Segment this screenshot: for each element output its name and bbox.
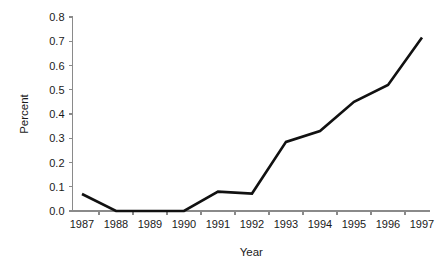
x-axis-title: Year (240, 246, 263, 258)
x-tick-label: 1993 (274, 218, 298, 230)
y-tick-label: 0.7 (49, 35, 64, 47)
x-tick-label: 1990 (172, 218, 196, 230)
x-axis-ticks: 1987198819891990199119921993199419951996… (70, 211, 434, 230)
data-series-line (82, 38, 422, 211)
y-tick-label: 0.2 (49, 157, 64, 169)
x-tick-label: 1997 (410, 218, 434, 230)
x-tick-label: 1989 (138, 218, 162, 230)
x-tick-label: 1994 (308, 218, 332, 230)
chart-canvas: 0.00.10.20.30.40.50.60.70.81987198819891… (0, 0, 440, 266)
x-tick-label: 1992 (240, 218, 264, 230)
x-tick-label: 1988 (104, 218, 128, 230)
x-tick-label: 1987 (70, 218, 94, 230)
y-tick-label: 0.8 (49, 11, 64, 23)
y-axis-ticks: 0.00.10.20.30.40.50.60.70.8 (49, 11, 72, 217)
x-tick-label: 1991 (206, 218, 230, 230)
y-tick-label: 0.1 (49, 181, 64, 193)
y-tick-label: 0.3 (49, 132, 64, 144)
x-tick-label: 1996 (376, 218, 400, 230)
y-tick-label: 0.6 (49, 60, 64, 72)
x-tick-label: 1995 (342, 218, 366, 230)
line-chart: 0.00.10.20.30.40.50.60.70.81987198819891… (0, 0, 440, 266)
y-tick-label: 0.5 (49, 84, 64, 96)
y-axis-title: Percent (18, 93, 30, 133)
y-tick-label: 0.4 (49, 108, 64, 120)
y-tick-label: 0.0 (49, 205, 64, 217)
